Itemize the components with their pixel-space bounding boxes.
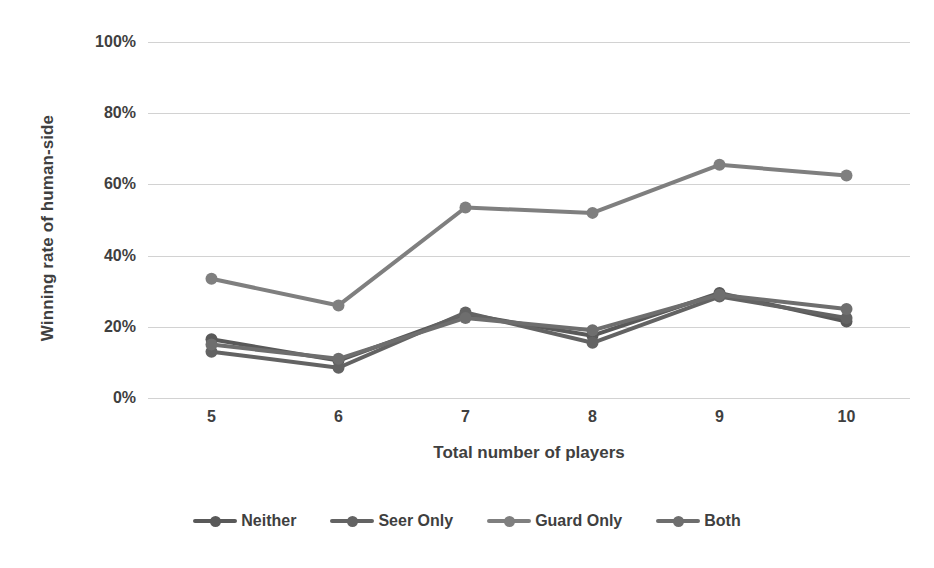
gridline <box>148 398 910 399</box>
data-point <box>587 337 599 349</box>
series-seer-only <box>206 291 853 374</box>
legend-item-label: Both <box>704 512 740 530</box>
data-point <box>333 299 345 311</box>
data-point <box>587 207 599 219</box>
y-axis-tick-label: 80% <box>58 104 136 122</box>
data-point <box>587 324 599 336</box>
legend-item-both[interactable]: Both <box>656 512 740 530</box>
legend-marker-icon <box>487 514 531 528</box>
x-axis-tick-label: 7 <box>436 408 496 426</box>
x-axis-tick-label: 10 <box>817 408 877 426</box>
x-axis-tick-label: 6 <box>309 408 369 426</box>
series-layer <box>148 42 910 398</box>
data-point <box>206 273 218 285</box>
y-axis-tick-labels: 0%20%40%60%80%100% <box>58 30 136 410</box>
legend-marker-icon <box>193 514 237 528</box>
data-point <box>206 339 218 351</box>
line-chart: Winning rate of human-side 0%20%40%60%80… <box>0 0 934 568</box>
y-axis-tick-label: 0% <box>58 389 136 407</box>
x-axis-tick-label: 8 <box>563 408 623 426</box>
legend-item-guard-only[interactable]: Guard Only <box>487 512 622 530</box>
plot-area <box>148 42 910 398</box>
y-axis-tick-label: 20% <box>58 318 136 336</box>
x-axis-tick-labels: 5678910 <box>148 408 910 438</box>
data-point <box>460 312 472 324</box>
x-axis-title: Total number of players <box>148 443 910 463</box>
legend-marker-icon <box>656 514 700 528</box>
y-axis-tick-label: 60% <box>58 175 136 193</box>
data-point <box>714 159 726 171</box>
legend-item-seer-only[interactable]: Seer Only <box>330 512 453 530</box>
legend-item-label: Neither <box>241 512 296 530</box>
legend-item-neither[interactable]: Neither <box>193 512 296 530</box>
data-point <box>714 289 726 301</box>
y-axis-tick-label: 40% <box>58 247 136 265</box>
data-point <box>841 303 853 315</box>
y-axis-title: Winning rate of human-side <box>38 73 58 383</box>
legend-marker-icon <box>330 514 374 528</box>
data-point <box>841 170 853 182</box>
y-axis-tick-label: 100% <box>58 33 136 51</box>
data-point <box>333 353 345 365</box>
series-guard-only <box>206 159 853 312</box>
x-axis-tick-label: 9 <box>690 408 750 426</box>
data-point <box>460 202 472 214</box>
chart-legend: NeitherSeer OnlyGuard OnlyBoth <box>0 512 934 530</box>
series-line <box>212 165 847 306</box>
legend-item-label: Seer Only <box>378 512 453 530</box>
x-axis-tick-label: 5 <box>182 408 242 426</box>
legend-item-label: Guard Only <box>535 512 622 530</box>
